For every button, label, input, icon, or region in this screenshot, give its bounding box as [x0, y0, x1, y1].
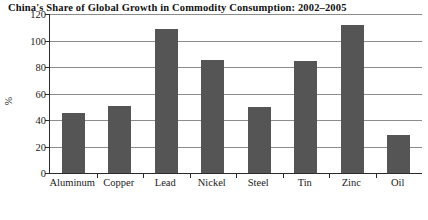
bar [155, 29, 178, 173]
y-tick-label: 0 [14, 168, 46, 179]
x-tick-label: Oil [391, 177, 404, 188]
x-tick-label: Lead [155, 177, 176, 188]
bar [201, 60, 224, 173]
x-tick-label: Aluminum [49, 177, 95, 188]
chart-title: China's Share of Global Growth in Commod… [8, 2, 347, 13]
x-tick-label: Copper [103, 177, 134, 188]
x-tick-label: Nickel [198, 177, 226, 188]
y-tick-label: 100 [14, 35, 46, 46]
y-tick-mark [45, 173, 50, 174]
y-axis-tick-labels: 020406080100120 [14, 0, 46, 220]
y-tick-label: 80 [14, 62, 46, 73]
bar-series [50, 14, 422, 173]
bar [248, 107, 271, 173]
y-tick-label: 40 [14, 115, 46, 126]
bar [294, 61, 317, 173]
bar-chart-figure: % 020406080100120 China's Share of Globa… [0, 0, 428, 220]
bar [387, 135, 410, 173]
plot-area [49, 14, 422, 174]
x-tick-label: Tin [298, 177, 312, 188]
x-tick-label: Zinc [342, 177, 361, 188]
y-tick-label: 20 [14, 141, 46, 152]
bar [108, 106, 131, 173]
bar [341, 25, 364, 173]
x-tick-label: Steel [248, 177, 269, 188]
x-axis-tick-labels: AluminumCopperLeadNickelSteelTinZincOil [49, 177, 421, 197]
y-tick-label: 60 [14, 88, 46, 99]
bar [62, 113, 85, 173]
